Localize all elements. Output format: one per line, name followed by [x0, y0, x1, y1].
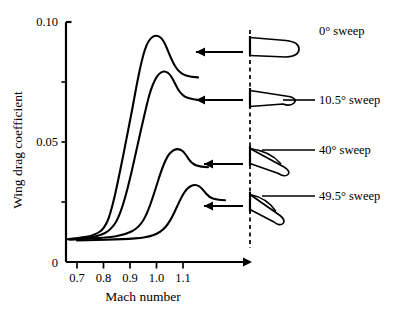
x-axis-arrowhead — [243, 258, 252, 267]
callout-labels-group: 0° sweep 10.5° sweep 40° sweep 49.5° swe… — [319, 24, 380, 203]
x-axis-title: Mach number — [105, 289, 181, 304]
callout-leaders-group — [262, 100, 315, 196]
callout-label-sweep-10-5: 10.5° sweep — [319, 93, 380, 107]
wing-planform-49-5deg — [250, 195, 284, 225]
x-tick-label-0-7: 0.7 — [69, 271, 85, 285]
figure-container: 0.10 0.05 0 0.7 0.8 0.9 1.0 1.1 Mach num… — [0, 0, 393, 318]
y-tick-label-top: 0.10 — [36, 15, 58, 29]
axes-group — [62, 22, 253, 269]
arrow-to-sweep-10-5 — [196, 96, 243, 105]
wing-planform-diagrams — [250, 30, 299, 248]
curve-sweep-0 — [68, 36, 199, 239]
x-tick-label-0-8: 0.8 — [96, 271, 112, 285]
wing-planform-10-5deg — [250, 91, 295, 107]
callout-label-sweep-40: 40° sweep — [319, 143, 371, 157]
callout-label-sweep-0: 0° sweep — [319, 24, 365, 38]
arrow-to-sweep-0 — [196, 48, 243, 57]
y-tick-label-zero: 0 — [52, 256, 58, 270]
x-tick-label-1-0: 1.0 — [149, 271, 165, 285]
curve-sweep-40 — [70, 149, 209, 239]
wing-planform-0deg — [250, 38, 299, 58]
y-axis-title: Wing drag coefficient — [10, 91, 25, 209]
x-tick-label-0-9: 0.9 — [122, 271, 138, 285]
x-tick-label-1-1: 1.1 — [175, 271, 191, 285]
arrow-to-sweep-40 — [204, 160, 243, 169]
pointer-arrows-group — [196, 48, 243, 211]
arrow-to-sweep-49-5 — [204, 202, 243, 211]
callout-label-sweep-49-5: 49.5° sweep — [319, 189, 380, 203]
tick-labels-group: 0.10 0.05 0 0.7 0.8 0.9 1.0 1.1 — [36, 15, 191, 285]
wing-planform-40deg — [250, 149, 289, 176]
data-curves-group — [68, 36, 226, 241]
wing-drag-coefficient-chart: 0.10 0.05 0 0.7 0.8 0.9 1.0 1.1 Mach num… — [0, 0, 393, 318]
y-tick-label-mid: 0.05 — [36, 135, 58, 149]
